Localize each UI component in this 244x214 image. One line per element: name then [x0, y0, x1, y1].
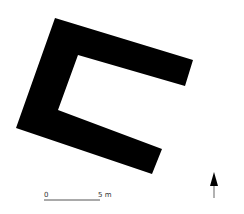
north-arrow-icon — [210, 172, 218, 198]
site-plan — [0, 0, 244, 214]
scale-start-label: 0 — [44, 192, 48, 199]
scale-end-label: 5 m — [98, 192, 112, 199]
building-footprint — [16, 18, 193, 174]
